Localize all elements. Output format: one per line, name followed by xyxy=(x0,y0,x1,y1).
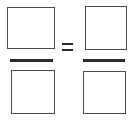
right-fraction xyxy=(0,0,135,120)
right-fraction-bar xyxy=(83,59,125,62)
left-fraction-bar xyxy=(10,59,53,62)
left-denominator-box[interactable] xyxy=(11,70,55,114)
equals-icon xyxy=(62,43,73,51)
right-denominator-box[interactable] xyxy=(83,71,126,114)
equals-stroke-bottom xyxy=(62,49,73,51)
left-fraction xyxy=(0,0,135,120)
equals-stroke-top xyxy=(62,43,73,45)
right-numerator-box[interactable] xyxy=(85,6,127,50)
equation-canvas xyxy=(0,0,135,120)
left-numerator-box[interactable] xyxy=(7,7,55,49)
